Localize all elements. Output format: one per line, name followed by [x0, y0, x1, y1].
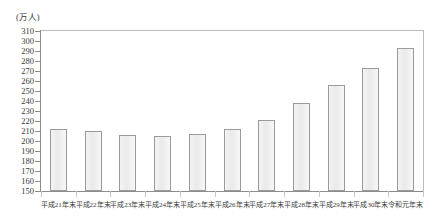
y-axis-tick — [35, 181, 40, 182]
y-axis-tick-label: 270 — [1, 67, 34, 76]
y-axis-tick — [35, 151, 40, 152]
y-axis-tick — [35, 131, 40, 132]
bar — [224, 129, 241, 191]
x-axis-separator — [319, 191, 320, 197]
x-axis-separator — [423, 191, 424, 197]
bar — [119, 135, 136, 191]
bar — [189, 134, 206, 191]
y-axis-tick-label: 180 — [1, 157, 34, 166]
y-axis-tick-label: 170 — [1, 167, 34, 176]
x-axis-separator — [76, 191, 77, 197]
x-axis-separator — [110, 191, 111, 197]
y-axis-tick-label: 220 — [1, 117, 34, 126]
y-axis-tick — [35, 191, 40, 192]
x-axis-separator — [284, 191, 285, 197]
y-axis-tick — [35, 71, 40, 72]
y-axis-tick — [35, 31, 40, 32]
y-axis-tick-labels: 1501601701801902002102202302402502602702… — [0, 0, 34, 224]
bar — [258, 120, 275, 191]
y-axis-tick — [35, 81, 40, 82]
y-axis-tick-label: 290 — [1, 47, 34, 56]
bar-chart: (万人) 15016017018019020021022023024025026… — [0, 0, 435, 224]
y-axis-tick — [35, 171, 40, 172]
y-axis-tick-label: 250 — [1, 87, 34, 96]
y-axis-tick — [35, 141, 40, 142]
y-axis-tick — [35, 111, 40, 112]
y-axis-tick — [35, 41, 40, 42]
y-axis-tick-label: 240 — [1, 97, 34, 106]
x-axis-separator — [180, 191, 181, 197]
x-axis-separator — [41, 191, 42, 197]
y-axis-tick-label: 190 — [1, 147, 34, 156]
bar — [154, 136, 171, 191]
y-axis-tick-label: 160 — [1, 177, 34, 186]
x-axis-separator — [354, 191, 355, 197]
y-axis-tick-label: 260 — [1, 77, 34, 86]
plot-right-rule — [423, 30, 424, 192]
y-axis-tick-label: 200 — [1, 137, 34, 146]
x-axis-separator — [145, 191, 146, 197]
bar — [362, 68, 379, 191]
x-axis-separator — [388, 191, 389, 197]
x-axis-line — [40, 191, 424, 192]
x-axis-separator — [249, 191, 250, 197]
y-axis-tick — [35, 161, 40, 162]
y-axis-tick — [35, 91, 40, 92]
y-axis-tick — [35, 101, 40, 102]
bar — [328, 85, 345, 191]
y-axis-tick — [35, 121, 40, 122]
y-axis-tick-label: 300 — [1, 37, 34, 46]
y-axis-tick-label: 210 — [1, 127, 34, 136]
bar — [293, 103, 310, 191]
plot-area — [41, 31, 423, 191]
bar — [85, 131, 102, 191]
x-axis-tick-label: 令和元年末 — [383, 201, 429, 209]
y-axis-tick — [35, 51, 40, 52]
bar — [397, 48, 414, 191]
y-axis-tick-label: 150 — [1, 187, 34, 196]
y-axis-tick-label: 310 — [1, 27, 34, 36]
x-axis-separator — [215, 191, 216, 197]
y-axis-tick-label: 230 — [1, 107, 34, 116]
bar — [50, 129, 67, 191]
y-axis-tick-label: 280 — [1, 57, 34, 66]
y-axis-tick — [35, 61, 40, 62]
